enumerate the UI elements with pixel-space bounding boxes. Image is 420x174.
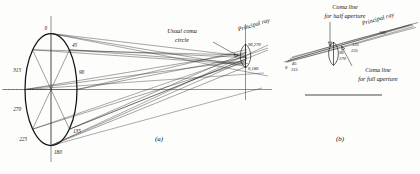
principal-ray-label-a: Principal ray — [236, 16, 271, 33]
zone-label-135: 135 — [73, 128, 81, 134]
zone-label-225: 225 — [19, 136, 27, 142]
coma-flare-strand-1 — [288, 25, 413, 61]
full-aperture-label-line2: for full aperture — [358, 75, 398, 82]
half-aperture-label-line1: Coma line — [332, 3, 358, 10]
panel-a: Usual coma circle Principal ray 90,270 0… — [2, 16, 272, 162]
zone-b-label-90: 90 — [339, 50, 344, 55]
zone-label-45: 45 — [72, 42, 78, 48]
zone-b-label-45: 45 — [292, 61, 297, 66]
zone-label-180: 180 — [54, 149, 62, 155]
panel-b-label: (b) — [336, 135, 345, 143]
zone-b-label-0: 0 — [285, 65, 288, 70]
coma-bottom-label: 0,180 — [248, 66, 259, 72]
panel-a-label: (a) — [155, 135, 164, 143]
panel-b: Coma line for half aperture Principal ra… — [284, 3, 418, 142]
zone-label-270: 270 — [13, 106, 21, 112]
figure-canvas: Usual coma circle Principal ray 90,270 0… — [0, 0, 420, 174]
zone-label-0: 0 — [44, 25, 47, 31]
coma-top-label: 90,270 — [248, 42, 261, 48]
zone-b-label-225: 225 — [351, 48, 359, 53]
zone-b-label-135: 135 — [352, 42, 360, 47]
zone-label-315: 315 — [13, 67, 21, 73]
zone-b-label-180: 180 — [379, 30, 387, 35]
usual-coma-circle-leader — [213, 42, 239, 56]
zone-b-label-315: 315 — [291, 67, 299, 72]
usual-coma-circle-label-line2: circle — [175, 36, 189, 43]
zone-label-90: 90 — [79, 69, 85, 75]
half-aperture-label-line2: for half aperture — [324, 12, 365, 19]
usual-coma-circle-label-line1: Usual coma — [167, 27, 197, 34]
full-aperture-label-line1: Coma line — [365, 66, 391, 73]
zone-b-label-270: 270 — [339, 56, 347, 61]
coma-aberration-figure: Usual coma circle Principal ray 90,270 0… — [0, 0, 420, 174]
